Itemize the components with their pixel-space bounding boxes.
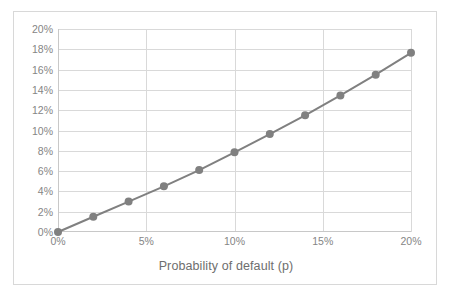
y-tick-label: 4% — [38, 186, 53, 197]
x-axis-tick-labels: 0%5%10%15%20% — [58, 236, 411, 252]
gridline-vertical — [411, 29, 412, 232]
data-point-marker — [89, 213, 97, 221]
data-point-marker — [266, 130, 274, 138]
y-axis-tick-labels: 0%2%4%6%8%10%12%14%16%18%20% — [14, 23, 53, 238]
data-point-marker — [125, 198, 133, 206]
x-tick-label: 0% — [50, 236, 65, 247]
data-point-marker — [407, 49, 415, 57]
data-point-marker — [195, 166, 203, 174]
y-tick-label: 14% — [32, 85, 53, 96]
series-line — [58, 53, 411, 232]
data-point-marker — [372, 71, 380, 79]
x-tick-label: 20% — [400, 236, 421, 247]
y-tick-label: 12% — [32, 105, 53, 116]
x-tick-label: 10% — [224, 236, 245, 247]
plot-area — [58, 29, 411, 232]
data-point-marker — [160, 182, 168, 190]
data-point-marker — [336, 91, 344, 99]
data-point-marker — [301, 111, 309, 119]
y-tick-label: 20% — [32, 24, 53, 35]
data-series — [58, 29, 411, 232]
chart-container: 0%2%4%6%8%10%12%14%16%18%20% 0%5%10%15%2… — [13, 11, 437, 285]
y-tick-label: 8% — [38, 146, 53, 157]
y-tick-label: 16% — [32, 65, 53, 76]
y-tick-label: 18% — [32, 44, 53, 55]
y-tick-label: 10% — [32, 126, 53, 137]
x-tick-label: 15% — [312, 236, 333, 247]
y-tick-label: 2% — [38, 207, 53, 218]
x-tick-label: 5% — [139, 236, 154, 247]
y-tick-label: 6% — [38, 166, 53, 177]
data-point-marker — [231, 148, 239, 156]
x-axis-title: Probability of default (p) — [14, 259, 438, 273]
